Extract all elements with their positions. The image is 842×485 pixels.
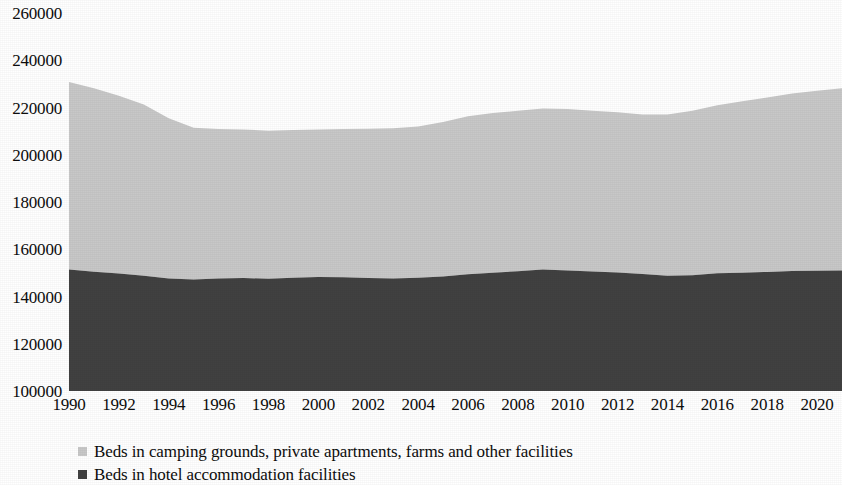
stacked-area-chart: 2600002400002200002000001800001600001400… [0,0,842,485]
area-camping-other [69,82,842,280]
x-axis: 1990199219941996199820002002200420062008… [0,396,842,420]
legend-item-camping-other: Beds in camping grounds, private apartme… [78,441,818,462]
y-axis-tick: 180000 [12,194,62,211]
x-axis-tick: 2010 [551,396,584,413]
y-axis: 2600002400002200002000001800001600001400… [0,0,66,400]
x-axis-tick: 1990 [52,396,85,413]
chart-legend: Beds in camping grounds, private apartme… [78,441,818,485]
x-axis-tick: 2002 [352,396,385,413]
y-axis-tick: 240000 [12,52,62,69]
x-axis-tick: 2000 [302,396,335,413]
x-axis-tick: 1994 [152,396,185,413]
y-axis-tick: 120000 [12,336,62,353]
x-axis-tick: 2020 [800,396,833,413]
legend-swatch-camping-other [78,447,87,456]
x-axis-tick: 2008 [501,396,534,413]
x-axis-tick: 2016 [701,396,734,413]
area-hotel-beds [69,270,842,391]
y-axis-tick: 200000 [12,147,62,164]
y-axis-tick: 220000 [12,100,62,117]
legend-label-hotel-beds: Beds in hotel accommodation facilities [94,466,356,483]
legend-swatch-hotel-beds [78,470,87,479]
x-axis-tick: 1996 [202,396,235,413]
x-axis-tick: 2018 [751,396,784,413]
legend-label-camping-other: Beds in camping grounds, private apartme… [94,443,573,460]
plot-svg [69,0,842,392]
legend-item-hotel-beds: Beds in hotel accommodation facilities [78,464,818,485]
x-axis-tick: 2006 [451,396,484,413]
y-axis-tick: 260000 [12,5,62,22]
x-axis-tick: 2012 [601,396,634,413]
x-axis-tick: 1998 [252,396,285,413]
y-axis-tick: 140000 [12,289,62,306]
plot-area [69,0,842,392]
x-axis-tick: 1992 [102,396,135,413]
x-axis-tick: 2004 [401,396,434,413]
x-axis-tick: 2014 [651,396,684,413]
y-axis-tick: 160000 [12,241,62,258]
